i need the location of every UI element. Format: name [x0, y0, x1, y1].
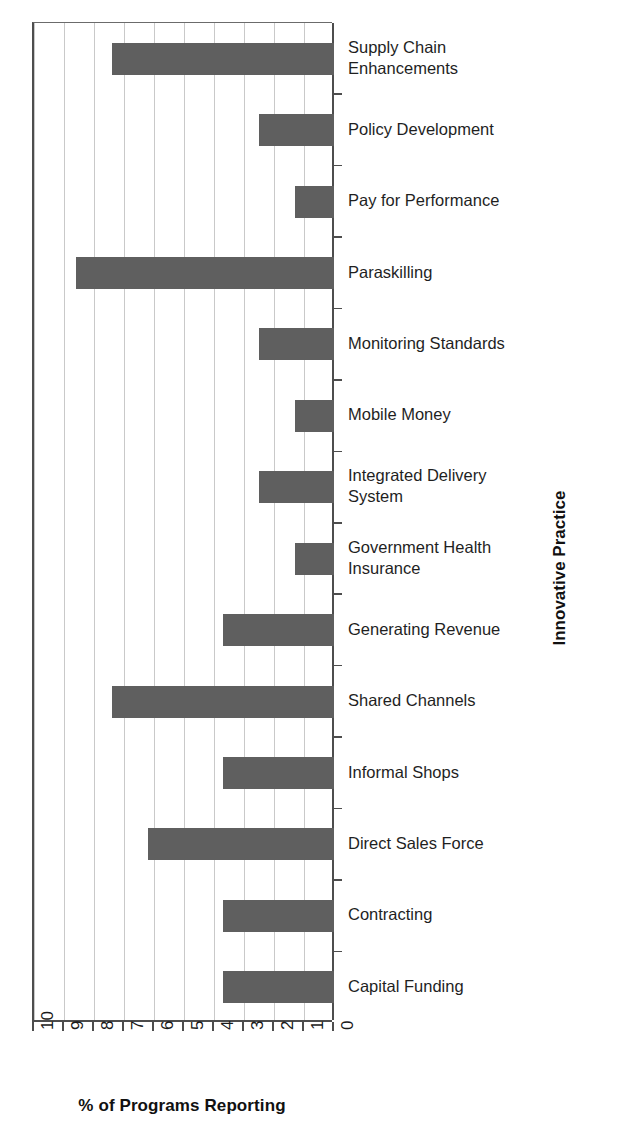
gridline	[184, 23, 185, 1020]
category-label: Integrated Delivery System	[348, 465, 544, 507]
y-tick	[332, 379, 342, 381]
bar	[112, 43, 334, 75]
category-label: Supply Chain Enhancements	[348, 37, 544, 79]
category-label: Government Health Insurance	[348, 537, 544, 579]
gridline	[244, 23, 245, 1020]
bar	[223, 757, 334, 789]
category-label: Monitoring Standards	[348, 333, 544, 354]
gridline	[274, 23, 275, 1020]
x-tick	[272, 1022, 274, 1031]
category-label: Informal Shops	[348, 762, 544, 783]
x-tick-label: 4	[219, 1021, 236, 1030]
category-label: Generating Revenue	[348, 619, 544, 640]
x-tick	[152, 1022, 154, 1031]
bar	[259, 328, 334, 360]
x-tick-label: 3	[249, 1021, 266, 1030]
category-label: Policy Development	[348, 119, 544, 140]
x-tick	[62, 1022, 64, 1031]
gridline	[154, 23, 155, 1020]
bar	[259, 114, 334, 146]
x-tick-label: 10	[39, 1011, 56, 1030]
gridline	[304, 23, 305, 1020]
x-tick	[242, 1022, 244, 1031]
x-tick	[212, 1022, 214, 1031]
bar	[295, 400, 334, 432]
plot-area	[32, 22, 332, 1022]
y-tick	[332, 808, 342, 810]
x-tick-label: 9	[69, 1021, 86, 1030]
bar-chart: 109876543210 Supply Chain EnhancementsPo…	[0, 0, 622, 1136]
bar	[148, 828, 334, 860]
y-tick	[332, 236, 342, 238]
y-tick	[332, 522, 342, 524]
category-label: Capital Funding	[348, 976, 544, 997]
x-tick-label: 6	[159, 1021, 176, 1030]
category-label: Mobile Money	[348, 404, 544, 425]
x-tick-label: 7	[129, 1021, 146, 1030]
category-label: Contracting	[348, 904, 544, 925]
y-tick	[332, 451, 342, 453]
bar	[76, 257, 334, 289]
y-tick	[332, 736, 342, 738]
bar	[259, 471, 334, 503]
x-tick-label: 0	[339, 1021, 356, 1030]
y-tick	[332, 879, 342, 881]
y-tick	[332, 665, 342, 667]
bar	[112, 686, 334, 718]
gridline	[214, 23, 215, 1020]
x-tick	[92, 1022, 94, 1031]
x-tick	[302, 1022, 304, 1031]
category-label: Pay for Performance	[348, 190, 544, 211]
y-tick	[332, 165, 342, 167]
category-label: Paraskilling	[348, 262, 544, 283]
x-tick	[32, 1022, 34, 1031]
y-tick	[332, 308, 342, 310]
gridline	[34, 23, 35, 1020]
x-tick-label: 2	[279, 1021, 296, 1030]
x-axis-title: % of Programs Reporting	[0, 1096, 364, 1116]
category-label: Shared Channels	[348, 690, 544, 711]
gridline	[64, 23, 65, 1020]
bar	[223, 900, 334, 932]
y-tick	[332, 93, 342, 95]
x-tick	[182, 1022, 184, 1031]
x-tick-label: 1	[309, 1021, 326, 1030]
x-tick	[332, 1022, 334, 1031]
y-tick	[332, 951, 342, 953]
category-label: Direct Sales Force	[348, 833, 544, 854]
bar	[295, 186, 334, 218]
bar	[223, 614, 334, 646]
y-axis-title: Innovative Practice	[550, 491, 570, 646]
gridline	[124, 23, 125, 1020]
x-tick-label: 5	[189, 1021, 206, 1030]
bar	[223, 971, 334, 1003]
x-tick	[122, 1022, 124, 1031]
bar	[295, 543, 334, 575]
gridline	[94, 23, 95, 1020]
y-tick	[332, 593, 342, 595]
x-tick-label: 8	[99, 1021, 116, 1030]
